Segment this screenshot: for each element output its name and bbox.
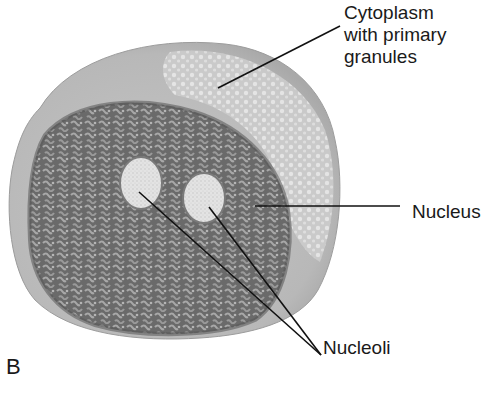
cytoplasm-label: Cytoplasm with primary granules: [344, 2, 492, 68]
cytoplasm-label-line-2: with primary: [344, 24, 492, 46]
nucleolus-left: [120, 157, 162, 209]
nucleoli-label: Nucleoli: [323, 337, 391, 359]
panel-letter: B: [6, 356, 21, 378]
cytoplasm-label-line-3: granules: [344, 46, 492, 68]
cell-diagram: Cytoplasm with primary granules Nucleus …: [0, 0, 492, 393]
nucleus-label: Nucleus: [412, 201, 481, 223]
nucleolus-right: [183, 173, 225, 223]
cytoplasm-label-line-1: Cytoplasm: [344, 2, 492, 24]
